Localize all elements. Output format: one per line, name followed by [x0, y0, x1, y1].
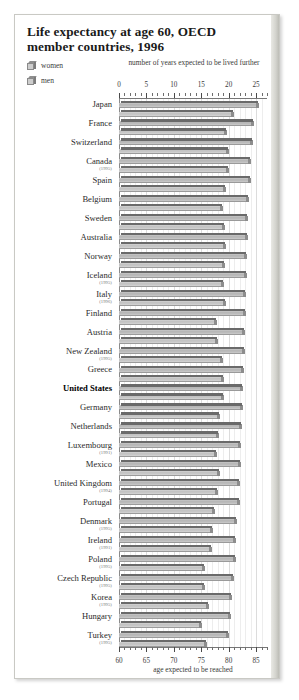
axis-tick — [130, 93, 131, 96]
bar-women — [119, 214, 248, 221]
category-label: Netherlands — [15, 422, 112, 431]
category-label: Hungary — [15, 612, 112, 621]
category-name: Mexico — [15, 460, 112, 469]
category-name: Germany — [15, 403, 112, 412]
bar-women — [119, 631, 229, 638]
bar-men — [119, 375, 224, 382]
bar-men — [119, 488, 218, 495]
bar-row: Finland — [15, 306, 263, 325]
axis-tick-label: 0 — [117, 81, 121, 89]
bar-women — [119, 498, 240, 505]
category-name: Sweden — [15, 214, 112, 223]
bar-pair — [119, 552, 263, 571]
cube-swatch-icon — [27, 76, 36, 85]
bar-pair — [119, 287, 263, 306]
category-label: Germany — [15, 403, 112, 412]
axis-tick-label: 60 — [115, 657, 122, 665]
category-name: Japan — [15, 100, 112, 109]
page-title: Life expectancy at age 60, OECD member c… — [27, 24, 265, 54]
bar-row: Switzerland — [15, 136, 263, 155]
axis-tick — [223, 647, 224, 650]
bar-men — [119, 412, 220, 419]
bar-women — [119, 555, 236, 562]
category-name: New Zealand — [15, 347, 112, 356]
legend-item-men: men — [27, 74, 115, 86]
axis-tick — [152, 647, 153, 650]
bar-women — [119, 290, 246, 297]
category-name: Austria — [15, 328, 112, 337]
category-label: France — [15, 119, 112, 128]
axis-tick — [212, 647, 213, 650]
category-name: Denmark — [15, 517, 112, 526]
bar-pair — [119, 514, 263, 533]
cube-swatch-icon — [27, 61, 36, 70]
bar-pair — [119, 420, 263, 439]
bar-pair — [119, 268, 263, 287]
bar-pair — [119, 344, 263, 363]
category-label: Finland — [15, 309, 112, 318]
axis-tick — [240, 647, 241, 650]
category-label: Sweden — [15, 214, 112, 223]
category-name: Korea — [15, 593, 112, 602]
category-year: (1991) — [15, 545, 112, 550]
bar-row: Norway — [15, 249, 263, 268]
axis-tick — [196, 647, 197, 650]
bar-pair — [119, 496, 263, 515]
bar-women — [119, 422, 242, 429]
bar-row: Canada(1995) — [15, 155, 263, 174]
category-name: Canada — [15, 157, 112, 166]
bar-women — [119, 366, 244, 373]
legend: women men — [27, 59, 115, 89]
category-year: (1995) — [15, 280, 112, 285]
axis-tick — [251, 647, 252, 650]
bar-men — [119, 621, 202, 628]
bottom-axis-title: age expected to be reached — [119, 665, 267, 674]
category-name: Poland — [15, 555, 112, 564]
axis-tick-label: 85 — [252, 657, 259, 665]
axis-tick — [163, 647, 164, 650]
bar-row: Poland(1995) — [15, 552, 263, 571]
bar-row: Iceland(1995) — [15, 268, 263, 287]
bar-row: United Kingdom(1994) — [15, 477, 263, 496]
bar-row: Luxembourg(1991) — [15, 439, 263, 458]
category-name: Portugal — [15, 498, 112, 507]
axis-tick — [174, 647, 175, 652]
bar-row: France — [15, 117, 263, 136]
axis-tick — [240, 93, 241, 96]
axis-tick — [190, 93, 191, 96]
bar-men — [119, 280, 224, 287]
bar-men — [119, 242, 226, 249]
category-name: Switzerland — [15, 138, 112, 147]
category-year: (1995) — [15, 602, 112, 607]
axis-tick — [130, 647, 131, 650]
bar-pair — [119, 590, 263, 609]
bar-men — [119, 337, 218, 344]
bar-women — [119, 479, 240, 486]
axis-tick — [207, 93, 208, 96]
legend-label-men: men — [41, 76, 54, 85]
bar-women — [119, 252, 247, 259]
bar-men — [119, 356, 223, 363]
category-year: (1995) — [15, 166, 112, 171]
category-name: Czech Republic — [15, 574, 112, 583]
bar-men — [119, 261, 225, 268]
category-label: Australia — [15, 233, 112, 242]
axis-tick — [163, 93, 164, 96]
axis-tick — [223, 93, 224, 96]
bar-row: New Zealand(1995) — [15, 344, 263, 363]
category-year: (1995) — [15, 526, 112, 531]
bar-pair — [119, 363, 263, 382]
bar-row: Sweden — [15, 212, 263, 231]
axis-tick — [234, 93, 235, 96]
bar-pair — [119, 231, 263, 250]
axis-tick — [245, 93, 246, 96]
axis-tick — [256, 647, 257, 652]
bar-men — [119, 204, 223, 211]
bar-row: Ireland(1991) — [15, 533, 263, 552]
axis-tick — [168, 647, 169, 650]
bar-women — [119, 536, 236, 543]
bar-pair — [119, 174, 263, 193]
category-year: (1996) — [15, 299, 112, 304]
bar-men — [119, 128, 227, 135]
axis-tick-label: 80 — [225, 657, 232, 665]
